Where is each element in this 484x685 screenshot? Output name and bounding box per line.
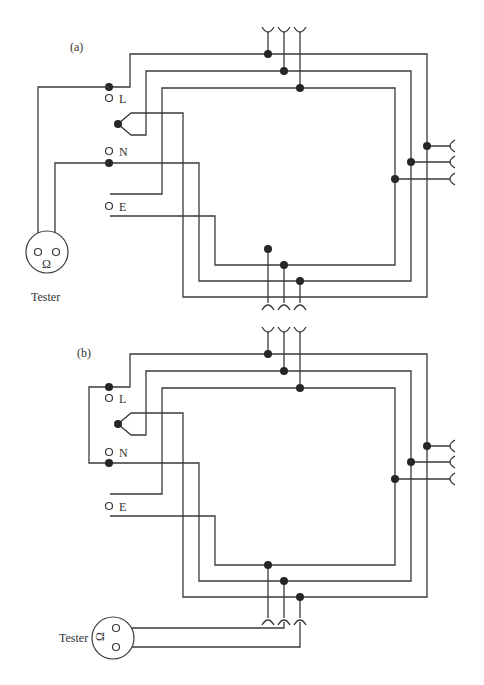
ohm-symbol: Ω: [93, 632, 107, 641]
terminal-e-label: E: [119, 200, 126, 214]
terminal-n-label: N: [119, 145, 128, 159]
terminal-e: [106, 503, 113, 510]
ring-conductor-middle: [109, 371, 411, 581]
diagram-a-label: (a): [70, 40, 83, 54]
socket-group-bottom: [262, 561, 306, 625]
tester-label: Tester: [59, 631, 88, 645]
terminal-l: [106, 95, 113, 102]
tester-lead-1: [116, 622, 284, 628]
tester-a: Ω Tester: [26, 231, 68, 304]
tester-label: Tester: [31, 290, 60, 304]
terminal-n: [106, 449, 113, 456]
diagram-b-label: (b): [77, 346, 91, 360]
terminal-l: [106, 395, 113, 402]
socket-group-top: [262, 327, 306, 392]
switch-junction: [114, 420, 122, 428]
ring-conductor-inner: [110, 388, 395, 565]
socket-group-right: [391, 440, 455, 485]
ring-conductor-inner: [110, 88, 395, 265]
terminal-e: [106, 203, 113, 210]
diagram-a: (a): [26, 27, 455, 310]
socket-group-top: [262, 27, 306, 92]
terminal-n-label: N: [119, 446, 128, 460]
tester-lead-2: [116, 622, 300, 647]
terminal-n: [106, 148, 113, 155]
socket-group-right: [391, 140, 455, 185]
terminal-l-label: L: [119, 92, 126, 106]
diagram-b: (b) L N: [59, 327, 455, 659]
terminal-l-label: L: [119, 392, 126, 406]
terminal-n-junction: [105, 459, 113, 467]
terminal-l-junction: [105, 383, 113, 391]
socket-group-bottom: [262, 245, 306, 310]
ring-conductor-middle: [109, 71, 411, 281]
tester-lead-l: [38, 87, 109, 248]
ring-circuit-diagrams: (a): [0, 0, 484, 685]
terminal-e-label: E: [119, 500, 126, 514]
ohm-symbol: Ω: [42, 257, 51, 271]
tester-lead-n: [55, 163, 109, 248]
ring-conductor-outer: [109, 354, 427, 597]
tester-b: Ω Tester: [59, 617, 134, 659]
switch-junction: [114, 120, 122, 128]
